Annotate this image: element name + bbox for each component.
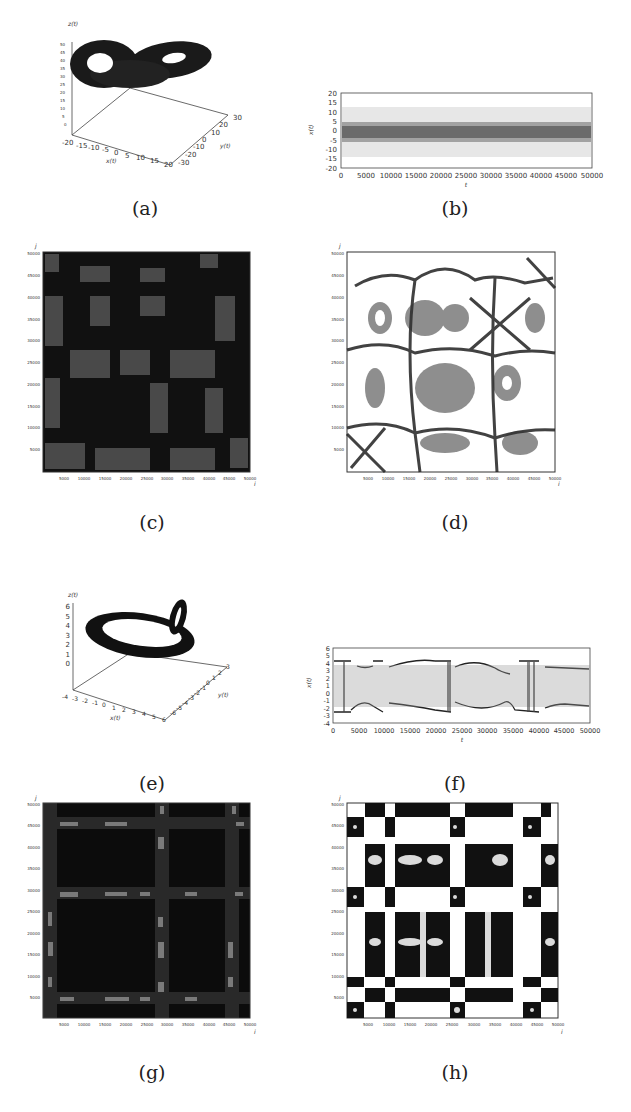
svg-text:45000: 45000 <box>223 476 236 481</box>
svg-text:20: 20 <box>164 161 173 169</box>
z-ticks: 50 45 40 35 30 25 20 15 10 5 0 <box>60 42 67 127</box>
svg-text:0: 0 <box>66 660 70 668</box>
svg-text:4: 4 <box>142 710 146 717</box>
svg-text:30000: 30000 <box>27 888 40 893</box>
svg-text:25000: 25000 <box>445 476 458 481</box>
svg-text:j: j <box>34 794 37 802</box>
svg-text:25000: 25000 <box>452 727 473 735</box>
svg-text:40: 40 <box>60 58 66 63</box>
svg-text:x(t): x(t) <box>305 677 312 689</box>
svg-text:-4: -4 <box>324 720 330 728</box>
svg-text:5000: 5000 <box>357 172 375 180</box>
svg-text:5000: 5000 <box>30 447 41 452</box>
subfigure-label-g: (g) <box>122 1061 182 1083</box>
svg-text:1: 1 <box>212 674 216 681</box>
svg-text:45: 45 <box>60 50 66 55</box>
svg-text:x(t): x(t) <box>109 714 121 721</box>
svg-text:10000: 10000 <box>27 974 40 979</box>
svg-text:10: 10 <box>328 109 337 117</box>
svg-text:40000: 40000 <box>27 845 40 850</box>
svg-text:y(t): y(t) <box>217 691 229 699</box>
svg-text:10: 10 <box>136 154 145 162</box>
svg-text:45000: 45000 <box>555 172 577 180</box>
svg-text:45000: 45000 <box>331 273 344 278</box>
svg-text:45000: 45000 <box>27 823 40 828</box>
svg-text:0: 0 <box>339 172 343 180</box>
svg-text:0: 0 <box>333 127 337 135</box>
svg-text:z(t): z(t) <box>67 591 78 598</box>
svg-text:30000: 30000 <box>161 476 174 481</box>
svg-text:50000: 50000 <box>581 172 603 180</box>
svg-text:20000: 20000 <box>27 382 40 387</box>
svg-text:0: 0 <box>64 122 67 127</box>
svg-text:15000: 15000 <box>99 476 112 481</box>
svg-text:j: j <box>338 794 341 802</box>
svg-text:15000: 15000 <box>27 404 40 409</box>
svg-text:5: 5 <box>152 713 156 720</box>
svg-text:15: 15 <box>150 157 159 165</box>
svg-text:t: t <box>461 736 464 743</box>
svg-text:5000: 5000 <box>351 727 368 735</box>
svg-text:30: 30 <box>233 114 242 122</box>
svg-text:-30: -30 <box>178 159 189 167</box>
svg-text:-10: -10 <box>88 144 99 152</box>
svg-text:-5: -5 <box>330 137 337 145</box>
panel-c-recurrence-plot: j 50000 45000 40000 35000 30000 25000 20… <box>10 238 290 488</box>
svg-text:40000: 40000 <box>203 1022 216 1027</box>
subfigure-label-c: (c) <box>122 511 182 533</box>
lorenz-attractor <box>70 36 214 88</box>
svg-text:j: j <box>338 242 341 250</box>
svg-text:10000: 10000 <box>383 1022 396 1027</box>
svg-text:40000: 40000 <box>203 476 216 481</box>
svg-text:0: 0 <box>114 149 118 157</box>
svg-text:50000: 50000 <box>27 802 40 807</box>
svg-text:-15: -15 <box>76 142 87 150</box>
svg-text:5: 5 <box>66 613 70 621</box>
svg-text:50000: 50000 <box>27 251 40 256</box>
svg-text:25000: 25000 <box>27 360 40 365</box>
svg-text:1: 1 <box>326 682 330 690</box>
svg-text:-20: -20 <box>62 139 73 147</box>
svg-text:30000: 30000 <box>331 338 344 343</box>
svg-text:-10: -10 <box>193 143 204 151</box>
svg-text:10000: 10000 <box>374 727 395 735</box>
svg-text:35000: 35000 <box>505 172 527 180</box>
svg-text:-4: -4 <box>62 693 68 700</box>
svg-text:15000: 15000 <box>404 1022 417 1027</box>
svg-text:5000: 5000 <box>30 995 41 1000</box>
svg-text:20000: 20000 <box>425 1022 438 1027</box>
svg-text:5: 5 <box>125 152 129 160</box>
svg-text:30000: 30000 <box>466 476 479 481</box>
svg-text:5000: 5000 <box>334 995 345 1000</box>
subfigure-label-f: (f) <box>425 772 485 794</box>
svg-text:-3: -3 <box>72 695 78 702</box>
svg-text:x(t): x(t) <box>307 124 314 136</box>
svg-text:40000: 40000 <box>510 1022 523 1027</box>
svg-text:20: 20 <box>328 90 337 98</box>
panel-d-recurrence-plot: j 50000 45000 40000 35000 <box>325 238 605 488</box>
svg-text:45000: 45000 <box>528 476 541 481</box>
svg-text:25000: 25000 <box>141 476 154 481</box>
svg-text:40000: 40000 <box>27 295 40 300</box>
svg-text:i: i <box>561 1028 563 1035</box>
svg-text:50: 50 <box>60 42 66 47</box>
svg-text:15000: 15000 <box>400 727 421 735</box>
svg-text:10000: 10000 <box>78 476 91 481</box>
svg-text:5: 5 <box>62 114 65 119</box>
svg-text:30000: 30000 <box>161 1022 174 1027</box>
svg-text:10000: 10000 <box>382 476 395 481</box>
subfigure-label-b: (b) <box>425 197 485 219</box>
z-axis-label: z(t) <box>67 20 78 27</box>
svg-text:50000: 50000 <box>331 251 344 256</box>
rossler-attractor <box>82 598 197 665</box>
svg-text:-10: -10 <box>326 146 337 154</box>
svg-text:35000: 35000 <box>486 476 499 481</box>
svg-text:35000: 35000 <box>27 866 40 871</box>
panel-a-lorenz-3d: z(t) 50 45 40 35 30 25 20 15 10 5 0 -20 … <box>30 0 280 180</box>
svg-text:25000: 25000 <box>446 1022 459 1027</box>
svg-text:2: 2 <box>218 669 222 676</box>
svg-text:25000: 25000 <box>141 1022 154 1027</box>
svg-text:-20: -20 <box>185 151 196 159</box>
panel-h-recurrence-plot: j <box>325 792 605 1037</box>
svg-text:10000: 10000 <box>380 172 402 180</box>
